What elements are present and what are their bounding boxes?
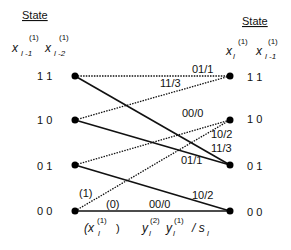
edge-label-11-11: 01/1 (192, 63, 213, 75)
svg-text:l: l (233, 52, 235, 61)
edge-label-11-01: 11/3 (211, 142, 232, 154)
right-state-10: 1 0 (247, 113, 262, 125)
edge-label-00-00: 00/0 (149, 198, 170, 210)
left-var-labels: (1) x l -1 (1) x l -2 (11, 33, 69, 58)
svg-text:x: x (225, 44, 233, 58)
right-state-01: 0 1 (247, 160, 262, 172)
node-left-11 (72, 73, 79, 80)
svg-text:y: y (141, 221, 149, 235)
node-left-01 (72, 162, 79, 169)
svg-text:(1): (1) (174, 216, 184, 225)
svg-text:l: l (173, 229, 175, 238)
node-left-00 (72, 208, 79, 215)
svg-text:l -1: l -1 (21, 49, 32, 58)
svg-text:(1): (1) (59, 33, 69, 42)
svg-text:x: x (255, 44, 263, 58)
svg-text:x: x (44, 41, 52, 55)
svg-text:(1): (1) (29, 33, 39, 42)
node-right-00 (227, 208, 234, 215)
svg-text:x: x (11, 41, 19, 55)
svg-text:(x: (x (84, 221, 95, 235)
edge-label-01-00: 10/2 (192, 189, 213, 201)
svg-text:): ) (116, 222, 120, 234)
input-label-zero: (0) (106, 198, 119, 210)
right-state-11: 1 1 (247, 71, 262, 83)
edge-label-10-01: 01/1 (181, 154, 202, 166)
node-right-11 (227, 73, 234, 80)
svg-text:/ s: / s (191, 221, 205, 235)
svg-text:y: y (165, 221, 173, 235)
edge-label-01-10: 00/0 (182, 107, 203, 119)
right-state-00: 0 0 (247, 206, 262, 218)
input-label-one: (1) (79, 187, 92, 199)
svg-text:(1): (1) (238, 37, 248, 46)
svg-text:l -1: l -1 (265, 52, 276, 61)
left-state-00: 0 0 (37, 205, 52, 217)
edge-10-01 (75, 120, 230, 165)
svg-text:(1): (1) (268, 37, 278, 46)
node-right-01 (227, 162, 234, 169)
svg-text:(1): (1) (97, 216, 107, 225)
svg-text:(2): (2) (150, 216, 160, 225)
edge-label-00-10: 10/2 (211, 128, 232, 140)
bottom-legend: (x (1) l ) y (2) l y (1) l / s l (84, 216, 209, 238)
left-state-10: 1 0 (37, 114, 52, 126)
left-state-header: State (22, 9, 48, 21)
svg-text:l: l (98, 229, 100, 238)
edge-10-11 (75, 76, 230, 120)
node-right-10 (227, 117, 234, 124)
left-state-01: 0 1 (37, 160, 52, 172)
edge-11-01 (75, 76, 230, 165)
left-state-11: 1 1 (37, 70, 52, 82)
svg-text:l -2: l -2 (54, 49, 66, 58)
edge-label-10-11: 11/3 (160, 77, 181, 89)
right-var-labels: (1) x l (1) x l -1 (225, 37, 278, 61)
trellis-diagram: State State (1) x l -1 (1) x l -2 (1) x … (0, 0, 291, 250)
svg-text:l: l (207, 229, 209, 238)
node-left-10 (72, 117, 79, 124)
right-state-header: State (242, 15, 268, 27)
svg-text:l: l (149, 229, 151, 238)
